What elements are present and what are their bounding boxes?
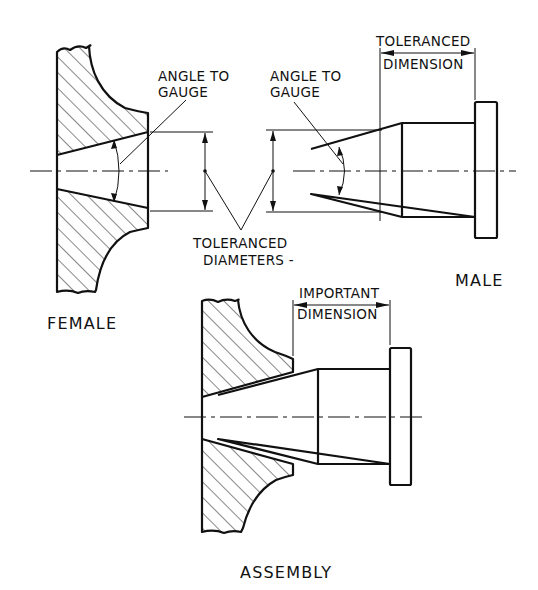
arrowhead xyxy=(376,302,389,308)
taper-fit-diagram: ANGLE TO GAUGE ANGLE TO GAUGE TOLERANCED… xyxy=(0,0,538,590)
toleranced-diameters-label-line2: DIAMETERS - xyxy=(203,252,294,268)
diameter-leaders xyxy=(205,171,273,230)
important-dimension-label-line2: DIMENSION xyxy=(297,306,378,322)
male-angle-leader xyxy=(294,102,343,164)
arrowhead xyxy=(270,131,276,141)
male-angle-label-line2: GAUGE xyxy=(270,84,320,100)
assembly-view xyxy=(184,300,423,533)
assembly-female-upper xyxy=(202,300,293,397)
arrowhead xyxy=(202,200,208,210)
male-flange xyxy=(475,102,497,238)
male-plug-outline xyxy=(311,123,475,217)
female-angle-label-line1: ANGLE TO xyxy=(158,68,229,84)
toleranced-dimension-label-line2: DIMENSION xyxy=(383,56,464,72)
assembly-caption: ASSEMBLY xyxy=(240,563,332,582)
female-upper-section xyxy=(57,45,148,155)
arrowhead xyxy=(270,201,276,211)
female-caption: FEMALE xyxy=(47,314,117,333)
leader-dot xyxy=(271,169,275,173)
male-caption: MALE xyxy=(455,271,504,290)
female-angle-label-line2: GAUGE xyxy=(158,84,208,100)
important-dimension-label-line1: IMPORTANT xyxy=(299,285,380,301)
female-lower-section xyxy=(57,189,148,293)
assembly-female-lower xyxy=(202,439,293,533)
toleranced-diameters-label-line1: TOLERANCED xyxy=(192,235,287,251)
male-angle-label-line1: ANGLE TO xyxy=(270,68,341,84)
arrowhead xyxy=(202,133,208,143)
toleranced-diameter-leader xyxy=(205,171,273,230)
toleranced-dimension-label-line1: TOLERANCED xyxy=(375,33,470,49)
